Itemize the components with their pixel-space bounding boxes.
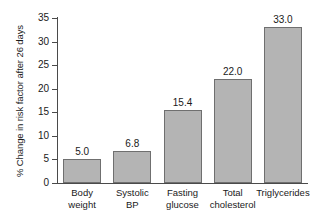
y-axis-tick-mark [52,136,57,137]
bar[interactable] [113,151,151,183]
plot-area: 05101520253035 5.06.815.422.033.0 [57,18,308,183]
y-axis-tick-mark [52,89,57,90]
bar-value-label: 22.0 [223,66,242,77]
bar[interactable] [164,110,202,183]
bar-value-label: 5.0 [75,146,89,157]
y-axis-tick-mark [52,183,57,184]
x-axis-tick-label: Triglycerides [255,187,311,199]
x-axis-tick-label: Body weight [54,187,110,210]
y-axis-tick-mark [52,65,57,66]
y-axis-tick-label: 25 [38,60,49,70]
y-axis-tick-mark [52,112,57,113]
bar-value-label: 6.8 [125,138,139,149]
x-axis-tick-label: Total cholesterol [205,187,261,210]
x-axis-line [57,183,308,184]
x-axis-tick-label: Systolic BP [104,187,160,210]
y-axis-tick-mark [52,42,57,43]
y-axis-tick-mark [52,159,57,160]
y-axis-tick-mark [52,18,57,19]
y-axis-tick-label: 0 [43,178,49,188]
x-axis-tick-label: Fasting glucose [154,187,210,210]
bar[interactable] [63,159,101,183]
y-axis-tick-label: 35 [38,13,49,23]
y-axis-tick-label: 15 [38,107,49,117]
bar-chart: % Change in risk factor after 26 days 05… [0,0,315,220]
y-axis-title: % Change in risk factor after 26 days [13,6,27,196]
bar[interactable] [264,27,302,183]
y-axis-tick-label: 10 [38,131,49,141]
bar-value-label: 15.4 [173,97,192,108]
y-axis-tick-label: 5 [43,154,49,164]
bar[interactable] [214,79,252,183]
y-axis-tick-label: 30 [38,37,49,47]
y-axis-tick-label: 20 [38,84,49,94]
bar-value-label: 33.0 [273,14,292,25]
